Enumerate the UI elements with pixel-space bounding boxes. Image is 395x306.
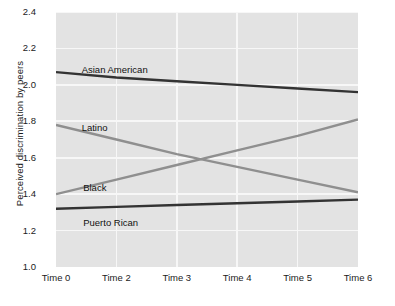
y-axis-tick-label: 1.8 — [0, 115, 36, 126]
plot-area: Asian AmericanLatinoBlackPuerto Rican — [56, 12, 358, 267]
y-axis-tick-label: 1.4 — [0, 188, 36, 199]
y-axis-tick-label: 1.2 — [0, 225, 36, 236]
series-lines — [56, 12, 358, 267]
y-axis-tick-label: 2.0 — [0, 79, 36, 90]
line-chart: Perceived discrimination by peers 1.01.2… — [0, 0, 395, 306]
y-axis-tick-label: 1.6 — [0, 152, 36, 163]
series-label-latino: Latino — [82, 122, 108, 133]
y-axis-tick-label: 1.0 — [0, 261, 36, 272]
series-label-black: Black — [83, 182, 106, 193]
series-label-puerto-rican: Puerto Rican — [83, 217, 138, 228]
y-axis-tick-label: 2.2 — [0, 42, 36, 53]
series-line-puerto-rican — [56, 200, 358, 209]
y-axis-tick-label: 2.4 — [0, 6, 36, 17]
x-axis-tick-label: Time 6 — [323, 272, 393, 283]
series-label-asian-american: Asian American — [82, 64, 148, 75]
